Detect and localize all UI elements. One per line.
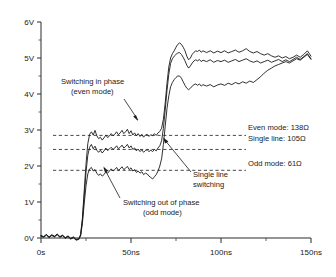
x-tick-label: 150ns: [300, 248, 322, 257]
x-tick-label: 50ns: [122, 248, 139, 257]
waveform-chart: 0V1V2V3V4V5V6V 0s50ns100ns150ns Even mod…: [0, 0, 336, 277]
y-tick-label: 3V: [24, 126, 34, 135]
legend-item-single-line: Single line: 105Ω: [248, 134, 306, 143]
single-line-annotation-line1: Single line: [193, 170, 228, 179]
y-tick-label: 1V: [24, 198, 34, 207]
x-tick-label: 100ns: [210, 248, 232, 257]
x-tick-label: 0s: [37, 248, 45, 257]
y-tick-label: 0V: [24, 234, 34, 243]
single-line-annotation-line2: switching: [193, 180, 224, 189]
chart-svg: 0V1V2V3V4V5V6V 0s50ns100ns150ns Even mod…: [0, 0, 336, 277]
odd-mode-annotation-line1: Switching out of phase: [123, 198, 199, 207]
even-mode-annotation-line1: Switching in phase: [61, 77, 124, 86]
y-tick-label: 6V: [24, 18, 34, 27]
legend-item-even-mode: Even mode: 138Ω: [248, 123, 309, 132]
y-tick-label: 4V: [24, 90, 34, 99]
legend-item-odd-mode: Odd mode: 61Ω: [248, 159, 302, 168]
y-tick-label: 2V: [24, 162, 34, 171]
odd-mode-annotation-line2: (odd mode): [143, 208, 182, 217]
y-tick-label: 5V: [24, 54, 34, 63]
even-mode-annotation-line2: (even mode): [71, 87, 114, 96]
